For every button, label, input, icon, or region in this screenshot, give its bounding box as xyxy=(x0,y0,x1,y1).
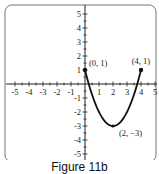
y-tick-label: -4 xyxy=(74,135,82,145)
x-tick-label: -5 xyxy=(11,87,18,97)
point-marker xyxy=(139,68,143,72)
x-tick-label: 3 xyxy=(125,87,129,97)
y-tick-label: 1 xyxy=(77,65,81,75)
point-marker xyxy=(83,68,87,72)
y-tick-label: 5 xyxy=(77,9,81,19)
coordinate-plane: -5-4-3-2-11234554321-1-2-3-4-5 (0, 1)(4,… xyxy=(0,0,159,160)
point-label: (0, 1) xyxy=(89,58,108,68)
x-tick-label: 1 xyxy=(97,87,101,97)
y-tick-label: 2 xyxy=(77,51,81,61)
y-tick-label: -2 xyxy=(74,107,81,117)
x-tick-label: 5 xyxy=(153,87,157,97)
y-tick-label: 4 xyxy=(77,23,82,33)
x-tick-label: -4 xyxy=(25,87,33,97)
x-tick-label: -3 xyxy=(39,87,46,97)
y-tick-label: -5 xyxy=(74,149,81,159)
x-tick-label: -2 xyxy=(53,87,60,97)
y-tick-label: 3 xyxy=(77,37,81,47)
figure-11b: -5-4-3-2-11234554321-1-2-3-4-5 (0, 1)(4,… xyxy=(0,0,159,174)
point-label: (2, −3) xyxy=(119,128,142,138)
point-marker xyxy=(111,124,114,127)
point-label: (4, 1) xyxy=(132,56,151,66)
x-tick-label: 2 xyxy=(111,87,115,97)
figure-caption: Figure 11b xyxy=(0,160,159,174)
y-tick-label: -1 xyxy=(74,93,81,103)
parabola-curve xyxy=(85,70,141,126)
y-tick-label: -3 xyxy=(74,121,81,131)
x-tick-label: 4 xyxy=(139,87,144,97)
